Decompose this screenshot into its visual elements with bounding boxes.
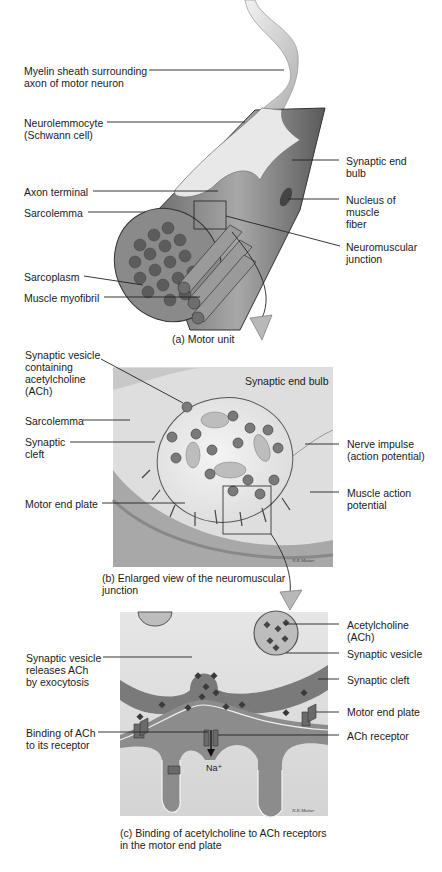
enlarged-nmj-illustration: N.R.Mutter [113, 367, 333, 567]
label-binding-of-ach: Binding of ACh to its receptor [26, 727, 95, 751]
caption-panel-b: (b) Enlarged view of the neuromuscular j… [102, 572, 285, 596]
label-nerve-impulse: Nerve impulse (action potential) [347, 438, 425, 462]
label-axon-terminal: Axon terminal [24, 186, 88, 198]
label-neuromuscular-junction: Neuromuscular junction [346, 241, 417, 265]
label-synaptic-cleft-b: Synaptic cleft [25, 436, 65, 460]
label-ach-receptor: ACh receptor [347, 730, 409, 742]
ach-binding-illustration: N.R.Mutter [120, 611, 328, 817]
label-sodium-ion: Na⁺ [206, 762, 222, 774]
label-synaptic-vesicle-c: Synaptic vesicle [347, 648, 422, 660]
label-muscle-myofibril: Muscle myofibril [24, 292, 99, 304]
svg-text:N.R.Mutter: N.R.Mutter [291, 558, 315, 563]
label-muscle-action-potential: Muscle action potential [347, 487, 411, 511]
label-myelin-sheath: Myelin sheath surrounding axon of motor … [24, 65, 147, 89]
label-sarcolemma-a: Sarcolemma [24, 207, 83, 219]
motor-unit-illustration [94, 0, 325, 341]
label-nucleus-muscle-fiber: Nucleus of muscle fiber [346, 194, 396, 230]
label-motor-end-plate-b: Motor end plate [25, 498, 98, 510]
caption-panel-c: (c) Binding of acetylcholine to ACh rece… [120, 827, 327, 851]
label-neurolemmocyte: Neurolemmocyte (Schwann cell) [24, 117, 103, 141]
label-sarcoplasm: Sarcoplasm [24, 271, 79, 283]
label-motor-end-plate-c: Motor end plate [347, 706, 420, 718]
label-synaptic-end-bulb-a: Synaptic end bulb [346, 155, 407, 179]
svg-text:N.R.Mutter: N.R.Mutter [291, 808, 315, 813]
caption-panel-a: (a) Motor unit [172, 333, 234, 345]
label-sarcolemma-b: Sarcolemma [25, 415, 84, 427]
label-synaptic-cleft-c: Synaptic cleft [347, 674, 409, 686]
label-synaptic-vesicle-ach: Synaptic vesicle containing acetylcholin… [25, 349, 100, 397]
label-synaptic-end-bulb-b: Synaptic end bulb [245, 375, 328, 387]
label-vesicle-releases-ach: Synaptic vesicle releases ACh by exocyto… [26, 652, 101, 688]
label-acetylcholine: Acetylcholine (ACh) [347, 619, 409, 643]
